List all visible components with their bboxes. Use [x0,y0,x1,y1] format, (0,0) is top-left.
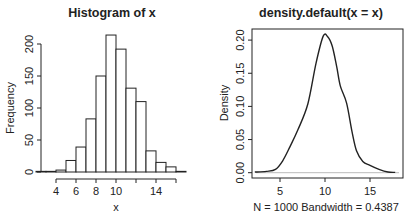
x-tick-label: 5 [277,185,283,197]
density-sublabel: N = 1000 Bandwidth = 0.4387 [253,201,399,213]
plot-box [252,29,403,178]
x-tick-label: 10 [110,185,122,197]
y-tick-label: 0.20 [234,29,246,50]
x-tick-label: 15 [364,185,376,197]
y-tick-label: 0.15 [234,63,246,84]
chart-canvas: Histogram of x Frequency x 4681014050100… [0,0,407,221]
density-panel: density.default(x = x) Density N = 1000 … [218,6,403,213]
histogram-bar [156,162,166,172]
histogram-bar [176,171,186,172]
x-tick-label: 8 [93,185,99,197]
histogram-bar [96,76,106,172]
histogram-xlabel: x [113,201,119,213]
histogram-bar [126,88,136,172]
histogram-bar [166,167,176,172]
histogram-bar [116,49,126,172]
x-tick-label: 6 [73,185,79,197]
histogram-bar [46,171,56,172]
x-tick-label: 4 [53,185,59,197]
y-tick-label: 150 [23,67,35,85]
x-tick-label: 14 [150,185,162,197]
histogram-bar [136,102,146,172]
y-tick-label: 200 [23,35,35,53]
histogram-bar [106,35,116,172]
density-title: density.default(x = x) [259,6,383,20]
y-tick-label: 0.05 [234,129,246,150]
histogram-panel: Histogram of x Frequency x 4681014050100… [4,6,186,213]
histogram-ylabel: Frequency [4,82,16,134]
y-tick-label: 0.10 [234,96,246,117]
histogram-bar [146,151,156,172]
y-tick-label: 0.00 [234,162,246,183]
density-curve [255,34,395,172]
histogram-title: Histogram of x [68,6,156,20]
histogram-bar [86,119,96,172]
histogram-bars [36,35,186,172]
histogram-bar [56,170,66,172]
density-ylabel: Density [218,84,230,121]
histogram-bar [76,147,86,172]
x-tick-label: 10 [319,185,331,197]
y-tick-label: 0 [23,169,35,175]
y-tick-label: 100 [23,99,35,117]
y-tick-label: 50 [23,134,35,146]
histogram-bar [66,160,76,172]
